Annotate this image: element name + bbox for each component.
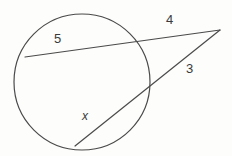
external-segment-label-upper: 4 [166,13,173,26]
geometry-figure: 5 4 3 x [0,0,232,156]
unknown-chord-length-label: x [82,110,88,122]
circle-shape [14,14,150,150]
external-segment-label-lower: 3 [186,62,193,75]
geometry-canvas [0,0,232,156]
chord-length-label-upper: 5 [54,32,61,45]
